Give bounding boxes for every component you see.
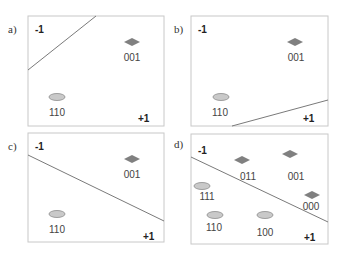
panel-d-positive-label: +1 — [304, 232, 315, 243]
panel-a-negative-label: -1 — [35, 24, 44, 35]
panel-b-point-label-110: 110 — [212, 107, 228, 118]
panel-d-ellipse-110-icon — [207, 212, 223, 219]
panel-d-negative-label: -1 — [198, 145, 207, 156]
panel-c-point-label-001: 001 — [124, 169, 141, 180]
panel-d-ellipse-100-icon — [257, 212, 273, 219]
panel-d-point-label-100: 100 — [257, 227, 274, 238]
panel-b-label: b) — [174, 23, 183, 35]
panel-b-negative-label: -1 — [198, 24, 207, 35]
panel-c-ellipse-110-icon — [49, 211, 65, 218]
figure-graphics — [0, 0, 341, 257]
panel-c-negative-label: -1 — [35, 141, 44, 152]
panel-d-point-label-111: 111 — [199, 191, 214, 202]
panel-d-point-label-000: 000 — [303, 201, 320, 212]
figure: a) -1 +1 001 110 b) -1 +1 001 110 c) -1 … — [0, 0, 341, 257]
panel-c-point-label-110: 110 — [49, 224, 65, 235]
panel-a-label: a) — [8, 23, 17, 35]
panel-a-ellipse-110-icon — [49, 94, 65, 101]
panel-a-positive-label: +1 — [138, 113, 149, 124]
panel-d-label: d) — [174, 138, 183, 150]
panel-b-positive-label: +1 — [303, 113, 314, 124]
panel-c-label: c) — [8, 140, 17, 152]
panel-d-ellipse-111-icon — [194, 183, 210, 190]
panel-d-point-label-001: 001 — [288, 171, 305, 182]
panel-b-point-label-001: 001 — [288, 52, 305, 63]
panel-a-point-label-001: 001 — [124, 52, 141, 63]
panel-c-positive-label: +1 — [143, 231, 154, 242]
panel-b-ellipse-110-icon — [213, 94, 229, 101]
panel-d-point-label-011: 011 — [240, 171, 256, 182]
panel-a-point-label-110: 110 — [49, 107, 65, 118]
panel-d-point-label-110: 110 — [206, 222, 222, 233]
